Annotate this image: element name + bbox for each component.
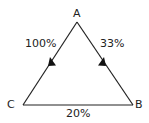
vertex-a-label: A — [73, 8, 81, 19]
vertex-b-label: B — [135, 99, 143, 110]
edge-a-c-label: 100% — [25, 38, 56, 49]
edge-a-b-label: 33% — [100, 38, 124, 49]
vertex-c-label: C — [7, 99, 15, 110]
arrow-a-c-icon — [48, 57, 56, 66]
edge-c-b-label: 20% — [66, 108, 90, 119]
